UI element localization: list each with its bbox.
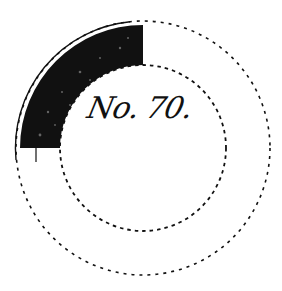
filled-sector xyxy=(20,25,143,148)
ring-diagram xyxy=(0,0,282,291)
figure-number-label: No. 70. xyxy=(84,90,202,126)
